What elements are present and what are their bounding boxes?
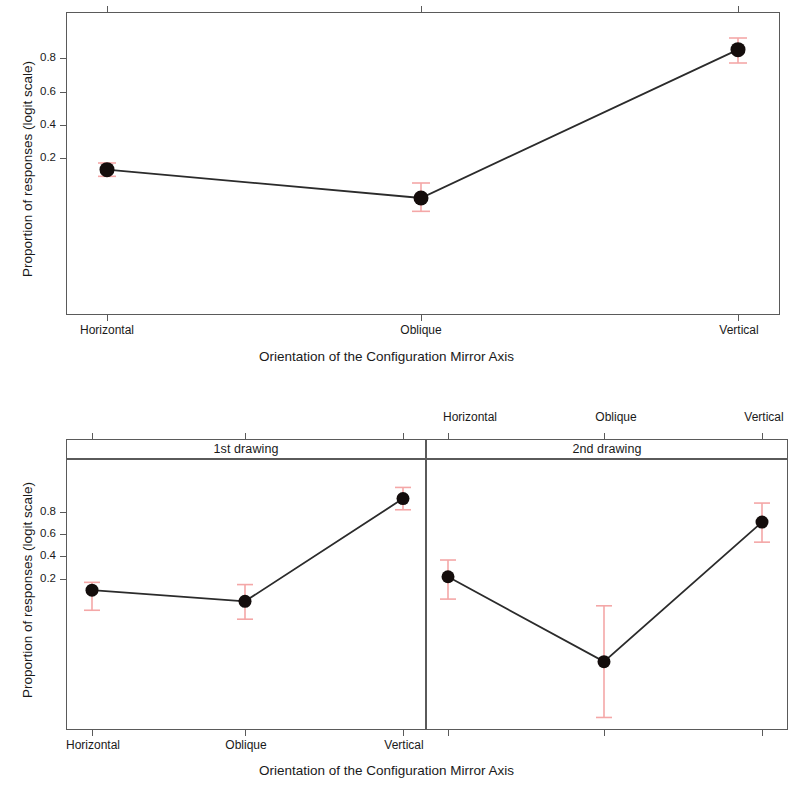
top-ytick-mark-1 bbox=[60, 125, 66, 126]
bl-xtick-mark-top-0 bbox=[92, 433, 93, 439]
bottom-ytick-mark-2 bbox=[60, 534, 66, 535]
strip-label-2nd-drawing: 2nd drawing bbox=[426, 439, 788, 459]
br-xtick-label-horizontal: Horizontal bbox=[443, 410, 497, 424]
bottom-yaxis-title: Proportion of responses (logit scale) bbox=[20, 482, 35, 698]
top-xtick-mark-top-1 bbox=[421, 6, 422, 12]
bottom-xaxis-title: Orientation of the Configuration Mirror … bbox=[259, 763, 514, 778]
top-xtick-mark-bottom-0 bbox=[107, 315, 108, 321]
strip-label-1st-drawing: 1st drawing bbox=[66, 439, 426, 459]
top-xaxis-title: Orientation of the Configuration Mirror … bbox=[259, 349, 514, 364]
top-xtick-label-horizontal: Horizontal bbox=[80, 323, 134, 337]
top-ytick-mark-3 bbox=[60, 58, 66, 59]
top-xtick-mark-bottom-2 bbox=[738, 315, 739, 321]
br-xtick-mark-top-1 bbox=[604, 433, 605, 439]
br-xtick-mark-top-2 bbox=[762, 433, 763, 439]
br-xtick-label-oblique: Oblique bbox=[595, 410, 636, 424]
br-xtick-mark-bottom-2 bbox=[762, 730, 763, 736]
br-xtick-label-vertical: Vertical bbox=[744, 410, 783, 424]
bl-xtick-mark-1 bbox=[245, 730, 246, 736]
bottom-ytick-mark-0 bbox=[60, 579, 66, 580]
bl-xtick-mark-top-2 bbox=[403, 433, 404, 439]
figure-container: 0.2 0.4 0.6 0.8 Horizontal Oblique Verti… bbox=[0, 0, 788, 788]
bottom-left-panel-frame bbox=[66, 459, 426, 730]
br-xtick-mark-top-0 bbox=[448, 433, 449, 439]
br-xtick-mark-bottom-0 bbox=[448, 730, 449, 736]
top-panel-frame bbox=[66, 12, 780, 315]
bl-xtick-mark-0 bbox=[92, 730, 93, 736]
bottom-ytick-mark-3 bbox=[60, 512, 66, 513]
bl-xtick-mark-2 bbox=[403, 730, 404, 736]
bl-xtick-mark-top-1 bbox=[245, 433, 246, 439]
top-ytick-mark-0 bbox=[60, 158, 66, 159]
top-xtick-label-vertical: Vertical bbox=[719, 323, 758, 337]
bottom-ytick-mark-1 bbox=[60, 556, 66, 557]
top-xtick-mark-bottom-1 bbox=[421, 315, 422, 321]
top-ytick-mark-2 bbox=[60, 92, 66, 93]
top-xtick-mark-top-0 bbox=[107, 6, 108, 12]
bl-xtick-label-oblique: Oblique bbox=[225, 738, 266, 752]
bl-xtick-label-horizontal: Horizontal bbox=[66, 738, 120, 752]
top-yaxis-title: Proportion of responses (logit scale) bbox=[20, 61, 35, 277]
br-xtick-mark-bottom-1 bbox=[604, 730, 605, 736]
bl-xtick-label-vertical: Vertical bbox=[384, 738, 423, 752]
top-xtick-mark-top-2 bbox=[738, 6, 739, 12]
top-xtick-label-oblique: Oblique bbox=[400, 323, 441, 337]
bottom-right-panel-frame bbox=[426, 459, 788, 730]
